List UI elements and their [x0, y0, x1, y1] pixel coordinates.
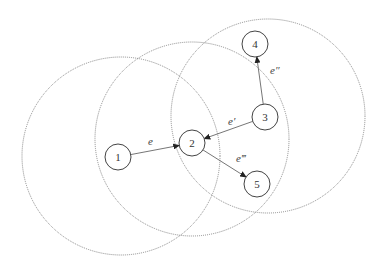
- node-label: 3: [262, 111, 268, 123]
- edge-label: e‴: [236, 152, 247, 164]
- node-label: 4: [252, 38, 258, 50]
- edge-label: e: [148, 135, 153, 147]
- edge-arrow: [131, 145, 179, 154]
- edge-3-to-4: e″: [257, 57, 280, 104]
- edge-1-to-2: e: [131, 135, 179, 155]
- node-2[interactable]: 2: [179, 130, 205, 156]
- network-diagram: ee′e″e‴ 12345: [0, 0, 380, 267]
- diagram-canvas: ee′e″e‴ 12345: [0, 0, 380, 267]
- node-label: 1: [115, 151, 121, 163]
- node-1[interactable]: 1: [105, 144, 131, 170]
- edge-2-to-5: e‴: [203, 150, 247, 177]
- node-5[interactable]: 5: [244, 171, 270, 197]
- node-3[interactable]: 3: [252, 104, 278, 130]
- edge-label: e′: [228, 115, 236, 127]
- edge-3-to-2: e′: [204, 115, 253, 139]
- edge-arrow: [257, 57, 263, 104]
- node-label: 5: [254, 178, 260, 190]
- edge-label: e″: [270, 64, 280, 76]
- node-label: 2: [189, 137, 195, 149]
- node-4[interactable]: 4: [242, 31, 268, 57]
